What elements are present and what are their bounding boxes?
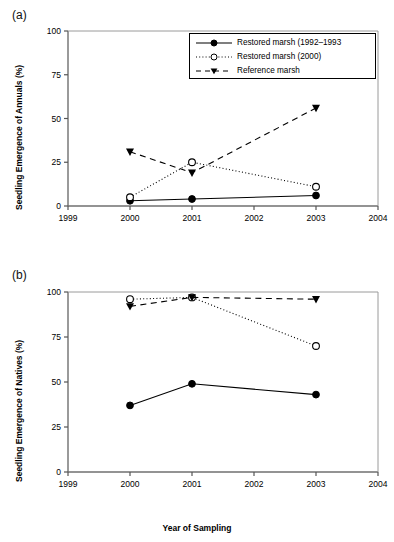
svg-text:1999: 1999: [59, 213, 78, 223]
svg-text:1999: 1999: [59, 479, 78, 489]
figure-container: (a) Seedling Emergence of Annuals (%) 02…: [0, 0, 394, 542]
panel-b-x-axis-label: Year of Sampling: [0, 523, 394, 533]
svg-text:2001: 2001: [183, 213, 202, 223]
panel-a: (a) Seedling Emergence of Annuals (%) 02…: [0, 0, 394, 271]
svg-text:2001: 2001: [183, 479, 202, 489]
svg-text:2002: 2002: [245, 213, 264, 223]
svg-text:2002: 2002: [245, 479, 264, 489]
svg-text:25: 25: [52, 157, 62, 167]
svg-text:50: 50: [52, 114, 62, 124]
legend-panel-a: Restored marsh (1992–1993 Restored marsh…: [189, 33, 376, 79]
svg-text:25: 25: [52, 422, 62, 432]
svg-text:100: 100: [47, 26, 61, 36]
svg-text:0: 0: [56, 467, 61, 477]
svg-text:2004: 2004: [369, 213, 388, 223]
legend-marker-filled-circle: [194, 37, 234, 49]
svg-text:2000: 2000: [121, 213, 140, 223]
legend-item-restored-1992: Restored marsh (1992–1993: [194, 37, 375, 49]
svg-text:2004: 2004: [369, 479, 388, 489]
svg-text:2000: 2000: [121, 479, 140, 489]
svg-text:2003: 2003: [307, 213, 326, 223]
svg-text:0: 0: [56, 201, 61, 211]
svg-text:75: 75: [52, 70, 62, 80]
panel-b-plot: 0255075100199920002001200220032004: [0, 260, 394, 542]
legend-label-restored-1992: Restored marsh (1992–1993: [234, 37, 341, 49]
legend-label-restored-2000: Restored marsh (2000): [234, 51, 321, 63]
svg-text:2003: 2003: [307, 479, 326, 489]
legend-item-reference-marsh: Reference marsh: [194, 65, 375, 77]
svg-text:75: 75: [52, 332, 62, 342]
legend-marker-filled-triangle: [194, 65, 234, 77]
legend-label-reference-marsh: Reference marsh: [234, 65, 300, 77]
legend-marker-open-circle: [194, 51, 234, 63]
svg-text:50: 50: [52, 377, 62, 387]
legend-item-restored-2000: Restored marsh (2000): [194, 51, 375, 63]
svg-text:100: 100: [47, 287, 61, 297]
panel-b: (b) Seedling Emergence of Natives (%) 02…: [0, 260, 394, 542]
